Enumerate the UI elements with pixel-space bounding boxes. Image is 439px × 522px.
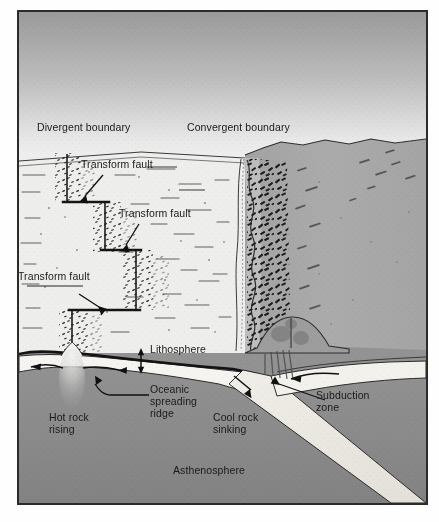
label-cool-rock-sinking: Cool rock sinking <box>213 412 279 436</box>
label-subduction-zone-line2: zone <box>316 401 339 413</box>
label-cool-rock-sinking-line1: Cool rock <box>213 411 258 423</box>
label-transform-fault-3: Transform fault <box>18 271 90 283</box>
label-subduction-zone: Subduction zone <box>316 390 390 414</box>
label-divergent-boundary: Divergent boundary <box>37 122 130 134</box>
label-hot-rock-rising: Hot rock rising <box>49 412 111 436</box>
label-lithosphere: Lithosphere <box>150 344 206 356</box>
label-oceanic-spreading-ridge-line1: Oceanic <box>150 383 189 395</box>
label-oceanic-spreading-ridge: Oceanic spreading ridge <box>150 384 222 419</box>
label-transform-fault-1: Transform fault <box>81 159 153 171</box>
label-oceanic-spreading-ridge-line2: spreading <box>150 395 197 407</box>
label-transform-fault-2: Transform fault <box>119 208 191 220</box>
label-convergent-boundary: Convergent boundary <box>187 122 290 134</box>
label-oceanic-spreading-ridge-line3: ridge <box>150 407 174 419</box>
figure-canvas: Divergent boundary Convergent boundary T… <box>0 0 439 522</box>
label-subduction-zone-line1: Subduction <box>316 389 370 401</box>
rising-plume-glow <box>59 348 85 408</box>
label-asthenosphere: Asthenosphere <box>173 465 245 477</box>
label-cool-rock-sinking-line2: sinking <box>213 423 246 435</box>
label-hot-rock-rising-line2: rising <box>49 423 75 435</box>
label-hot-rock-rising-line1: Hot rock <box>49 411 89 423</box>
diagram-frame: Divergent boundary Convergent boundary T… <box>17 10 428 505</box>
sky-background <box>19 12 426 162</box>
